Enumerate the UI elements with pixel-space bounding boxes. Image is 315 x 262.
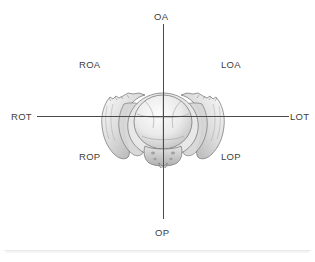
label-rop: ROP [79, 152, 101, 162]
transverse-axis-line [37, 116, 289, 117]
label-oa: OA [154, 12, 168, 22]
anterior-posterior-axis-line [163, 24, 164, 219]
label-op: OP [155, 228, 169, 238]
bottom-divider [4, 250, 311, 251]
label-rot: ROT [11, 112, 32, 122]
label-lot: LOT [290, 112, 309, 122]
fetal-position-diagram: OA OP ROT LOT ROA LOA ROP LOP [0, 0, 315, 262]
label-roa: ROA [79, 60, 101, 70]
label-lop: LOP [221, 152, 241, 162]
bottom-divider-shadow [6, 251, 309, 253]
label-loa: LOA [221, 60, 241, 70]
